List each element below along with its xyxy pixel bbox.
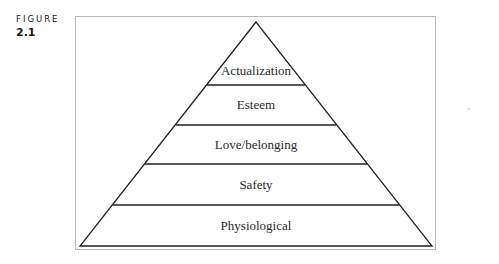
pyramid-diagram: Actualization Esteem Love/belonging Safe… (0, 0, 499, 264)
level-safety: Safety (239, 177, 273, 192)
level-actualization: Actualization (221, 63, 292, 78)
level-physiological: Physiological (221, 218, 292, 233)
level-esteem: Esteem (237, 97, 275, 112)
pyramid-outline (80, 22, 432, 246)
level-love-belonging: Love/belonging (215, 137, 298, 152)
